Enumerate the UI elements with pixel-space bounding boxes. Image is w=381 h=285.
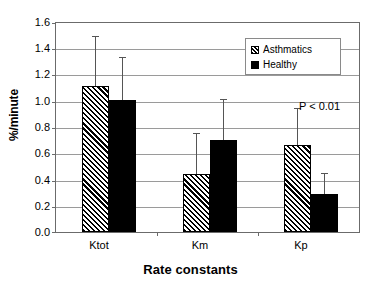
y-tick-mark xyxy=(52,49,56,50)
y-tick-mark xyxy=(52,232,56,233)
error-bar-cap xyxy=(220,99,227,100)
x-tick-label-kp: Kp xyxy=(266,239,336,251)
error-bar-cap xyxy=(119,57,126,58)
legend-item-asthmatics: Asthmatics xyxy=(251,43,340,57)
y-tick-label: 1.0 xyxy=(26,96,50,107)
bar-healthy-kp xyxy=(311,194,338,232)
x-tick-label-km: Km xyxy=(165,239,235,251)
gridline xyxy=(56,75,359,76)
x-tick-label-ktot: Ktot xyxy=(64,239,134,251)
bar-asthmatics-km xyxy=(183,174,210,232)
error-bar-cap xyxy=(92,36,99,37)
x-axis-title: Rate constants xyxy=(0,262,381,277)
x-tick-mark xyxy=(157,232,158,236)
error-bar-asthmatics-ktot xyxy=(95,37,96,86)
y-tick-label: 1.2 xyxy=(26,69,50,80)
bar-asthmatics-ktot xyxy=(82,86,109,232)
error-bar-asthmatics-km xyxy=(196,134,197,174)
y-tick-label: 0.2 xyxy=(26,201,50,212)
error-bar-healthy-kp xyxy=(324,174,325,194)
error-bar-cap xyxy=(321,173,328,174)
y-axis-title: %/minute xyxy=(7,75,21,155)
error-bar-cap xyxy=(193,133,200,134)
y-tick-label: 0.6 xyxy=(26,148,50,159)
hatch-swatch-icon xyxy=(251,46,259,54)
error-bar-healthy-km xyxy=(223,100,224,140)
solid-swatch-icon xyxy=(251,61,259,69)
legend: Asthmatics Healthy xyxy=(245,38,341,75)
y-tick-mark xyxy=(52,75,56,76)
bar-healthy-ktot xyxy=(109,100,136,232)
y-axis-tick-labels: 1.6 1.4 1.2 1.0 0.8 0.6 0.4 0.2 0.0 xyxy=(22,0,50,285)
bar-asthmatics-kp xyxy=(284,145,311,232)
y-tick-label: 0.0 xyxy=(26,227,50,238)
y-tick-mark xyxy=(52,128,56,129)
y-tick-mark xyxy=(52,102,56,103)
significance-annotation: P < 0.01 xyxy=(299,100,340,112)
bar-chart-figure: %/minute 1.6 1.4 1.2 1.0 0.8 0.6 0.4 0.2… xyxy=(0,0,381,285)
error-bar-asthmatics-kp xyxy=(297,109,298,145)
y-tick-label: 1.4 xyxy=(26,43,50,54)
legend-item-label: Asthmatics xyxy=(263,45,312,55)
y-tick-label: 0.8 xyxy=(26,122,50,133)
legend-item-label: Healthy xyxy=(263,60,297,70)
y-tick-mark xyxy=(52,181,56,182)
x-tick-mark xyxy=(258,232,259,236)
y-tick-label: 0.4 xyxy=(26,175,50,186)
error-bar-healthy-ktot xyxy=(122,58,123,100)
y-tick-mark xyxy=(52,207,56,208)
legend-item-healthy: Healthy xyxy=(251,58,340,72)
y-tick-label: 1.6 xyxy=(26,17,50,28)
y-tick-mark xyxy=(52,154,56,155)
bar-healthy-km xyxy=(210,140,237,232)
y-tick-mark xyxy=(52,23,56,24)
